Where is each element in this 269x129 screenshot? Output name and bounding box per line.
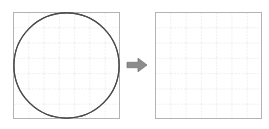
arrow-shape [127, 58, 147, 72]
right-arrow-icon [126, 56, 148, 74]
source-figure-panel [13, 12, 120, 119]
geometry-figure: Inscribed circle with four-arc star, and… [0, 0, 269, 129]
target-blank-panel[interactable] [155, 12, 262, 119]
grid-overlay [155, 12, 262, 119]
